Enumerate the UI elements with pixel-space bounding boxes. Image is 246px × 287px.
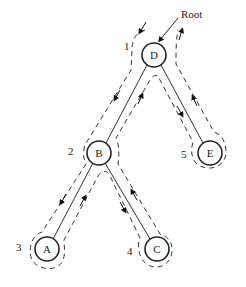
edge-b-a [53,163,93,239]
node-c-label: C [153,243,160,255]
node-b: B [87,141,111,165]
root-label: Root [181,8,202,20]
order-number-3: 3 [16,241,22,253]
traversal-path [30,30,226,269]
order-number-1: 1 [124,40,130,52]
edge-d-e [161,65,203,143]
order-number-5: 5 [181,148,187,160]
tree-diagram: Root D B A C E 1 2 3 4 5 [0,0,246,287]
node-d: D [142,43,166,67]
edge-b-c [105,163,150,239]
node-b-label: B [95,147,102,159]
root-pointer-arrow [160,18,178,40]
node-e: E [198,141,222,165]
order-number-2: 2 [68,145,74,157]
node-a-label: A [43,243,51,255]
node-e-label: E [207,147,214,159]
node-a: A [35,237,59,261]
order-number-4: 4 [127,245,133,257]
edge-d-b [106,65,147,143]
node-c: C [145,237,169,261]
node-d-label: D [150,49,158,61]
